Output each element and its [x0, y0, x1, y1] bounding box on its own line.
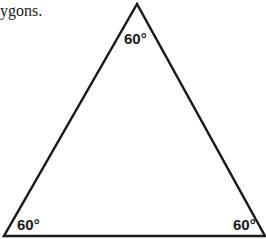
angle-label-top: 60°	[124, 30, 147, 47]
triangle-diagram: 60° 60° 60°	[0, 0, 266, 239]
angle-label-bottom-right: 60°	[233, 216, 256, 233]
angle-label-bottom-left: 60°	[17, 216, 40, 233]
